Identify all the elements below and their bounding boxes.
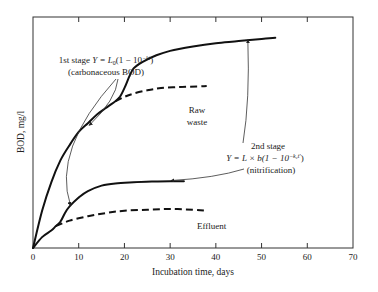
raw-waste-label-1: Raw	[189, 105, 206, 115]
first-stage-sup: −kt	[142, 55, 151, 61]
effluent-total-curve	[33, 181, 184, 248]
x-tick-label: 50	[257, 252, 267, 262]
second-stage-arrow-effluent	[171, 169, 244, 181]
second-stage-sup: −k₂t'	[289, 153, 301, 159]
first-stage-prefix: 1st stage	[59, 55, 93, 65]
y-axis-label: BOD, mg/l	[16, 111, 26, 154]
first-stage-annotation: 1st stage Y = L0(1 − 10−kt)	[59, 55, 154, 66]
x-tick-label: 20	[120, 252, 130, 262]
plot-border	[33, 17, 353, 248]
raw-waste-label-2: waste	[187, 117, 208, 127]
first-stage-subtitle: (carbonaceous BOD)	[68, 67, 144, 77]
first-stage-eq3: )	[150, 55, 153, 65]
first-stage-eq2: (1 − 10	[116, 55, 143, 65]
plot-frame	[33, 17, 353, 248]
second-stage-annotation: Y = L × b(1 − 10−k₂t')	[226, 153, 303, 163]
x-tick-label: 70	[349, 252, 359, 262]
x-tick-label: 0	[31, 252, 36, 262]
x-ticks: 010203040506070	[31, 17, 358, 262]
second-stage-arrow-raw	[243, 40, 248, 143]
x-tick-label: 30	[166, 252, 176, 262]
x-axis-label: Incubation time, days	[152, 267, 234, 277]
raw-waste-first-stage-curve	[115, 86, 206, 101]
second-stage-eq: Y = L × b(1 − 10	[226, 153, 289, 163]
x-tick-label: 60	[303, 252, 313, 262]
effluent-first-stage-curve	[56, 209, 207, 226]
second-stage-title: 2nd stage	[251, 141, 285, 151]
second-stage-subtitle: (nitrification)	[247, 165, 295, 175]
second-stage-eq3: )	[301, 153, 304, 163]
x-tick-label: 40	[211, 252, 221, 262]
first-stage-eq: Y = L	[92, 55, 113, 65]
first-stage-arrow-effluent	[66, 79, 116, 205]
x-tick-label: 10	[74, 252, 84, 262]
bod-chart: 010203040506070 Incubation time, days BO…	[0, 0, 378, 292]
effluent-label: Effluent	[197, 221, 227, 231]
